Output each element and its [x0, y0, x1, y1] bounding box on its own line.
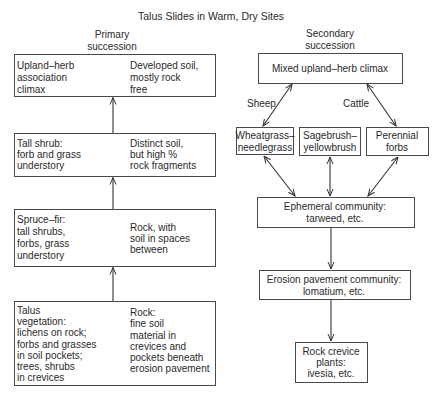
primary-stage-climax: Upland–herb association climax Developed…	[15, 55, 216, 97]
community-sagebrush: Sagebrush– yellowbrush	[300, 128, 361, 156]
stage-vegetation-line: lichens on rock;	[17, 327, 86, 338]
stage-vegetation-line: association	[17, 72, 67, 83]
stage-vegetation-line: Spruce–fir:	[17, 214, 65, 225]
stage-vegetation-line: forb and grass	[17, 149, 81, 160]
secondary-heading: Secondary succession	[305, 28, 354, 51]
community-rock-crevice: Rock crevice plants: ivesia, etc.	[296, 343, 368, 383]
stage-soil-line: soil in spaces	[130, 233, 190, 244]
community-line: Erosion pavement community:	[267, 274, 402, 285]
stage-soil-line: Rock, with	[130, 222, 176, 233]
primary-heading-line-1: Primary	[95, 29, 129, 40]
community-line: yellowbrush	[304, 142, 357, 153]
community-line: Rock crevice	[302, 346, 360, 357]
stage-soil-line: mostly rock	[130, 72, 182, 83]
stage-vegetation-line: vegetation:	[17, 316, 66, 327]
stage-vegetation-line: forbs, grass	[17, 238, 69, 249]
stage-soil-line: erosion pavement	[130, 363, 210, 374]
secondary-heading-line-1: Secondary	[306, 28, 354, 39]
stage-vegetation-line: Tall shrub:	[17, 138, 63, 149]
community-line: Wheatgrass–	[236, 130, 295, 141]
stage-soil-line: rock fragments	[130, 160, 196, 171]
primary-stage-talus: Talus vegetation: lichens on rock; forbs…	[15, 302, 216, 386]
stage-soil-line: material in	[130, 330, 176, 341]
community-line: forbs	[386, 142, 408, 153]
community-erosion-pavement: Erosion pavement community: lomatium, et…	[260, 271, 411, 300]
secondary-climax: Mixed upland–herb climax	[259, 54, 403, 84]
stage-soil-line: pockets beneath	[130, 352, 203, 363]
stage-vegetation-line: forbs and grasses	[17, 339, 97, 350]
primary-stage-spruce-fir: Spruce–fir: tall shrubs, forbs, grass un…	[15, 210, 216, 267]
cattle-label: Cattle	[343, 98, 370, 109]
primary-stage-tall-shrub: Tall shrub: forb and grass understory Di…	[15, 134, 216, 177]
stage-vegetation-line: understory	[17, 250, 64, 261]
double-arrow-icon	[367, 84, 396, 126]
stage-soil-line: free	[130, 84, 148, 95]
stage-vegetation-line: in crevices	[17, 372, 64, 383]
stage-soil-line: crevices and	[130, 341, 186, 352]
double-arrow-icon	[368, 157, 398, 196]
stage-vegetation-line: in soil pockets;	[17, 350, 83, 361]
community-wheatgrass: Wheatgrass– needlegrass	[236, 128, 295, 155]
secondary-heading-line-2: succession	[305, 40, 354, 51]
community-line: plants:	[316, 357, 345, 368]
community-ephemeral: Ephemeral community: tarweed, etc.	[258, 198, 415, 228]
diagram-title: Talus Slides in Warm, Dry Sites	[138, 10, 284, 22]
stage-soil-line: between	[130, 244, 168, 255]
community-line: Sagebrush–	[303, 130, 357, 141]
stage-soil-line: Distinct soil,	[130, 138, 183, 149]
community-perennial-forbs: Perennial forbs	[367, 128, 429, 156]
climax-label: Mixed upland–herb climax	[272, 63, 388, 74]
community-line: needlegrass	[238, 142, 292, 153]
sheep-label: Sheep	[247, 98, 276, 109]
community-line: lomatium, etc.	[303, 286, 365, 297]
double-arrow-icon	[264, 156, 295, 196]
community-line: tarweed, etc.	[306, 213, 363, 224]
primary-heading: Primary succession	[87, 29, 136, 52]
stage-vegetation-line: understory	[17, 160, 64, 171]
succession-diagram: Talus Slides in Warm, Dry Sites Primary …	[0, 0, 441, 395]
primary-heading-line-2: succession	[87, 41, 136, 52]
stage-vegetation-line: Upland–herb	[17, 60, 75, 71]
stage-soil-line: Rock:	[130, 307, 156, 318]
stage-soil-line: Developed soil,	[130, 60, 198, 71]
stage-vegetation-line: trees, shrubs	[17, 361, 75, 372]
community-line: ivesia, etc.	[307, 368, 354, 379]
stage-soil-line: but high %	[130, 149, 177, 160]
stage-vegetation-line: tall shrubs,	[17, 226, 65, 237]
stage-vegetation-line: Talus	[17, 305, 40, 316]
community-line: Ephemeral community:	[284, 201, 386, 212]
community-line: Perennial	[376, 130, 418, 141]
stage-vegetation-line: climax	[17, 84, 45, 95]
stage-soil-line: fine soil	[130, 318, 164, 329]
